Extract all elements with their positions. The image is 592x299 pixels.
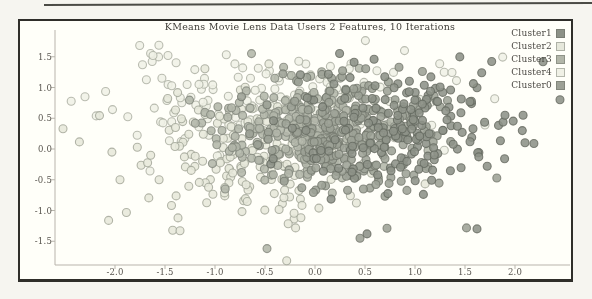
scatter-point [203, 199, 211, 207]
scatter-point [81, 93, 89, 101]
scatter-point [248, 50, 256, 58]
scatter-point [366, 139, 374, 147]
scatter-point [201, 65, 209, 73]
scatter-point [183, 81, 191, 89]
scatter-point [367, 132, 375, 140]
scatter-point [439, 126, 447, 134]
scatter-point [296, 115, 304, 123]
scatter-point [384, 190, 392, 198]
scatter-point [262, 70, 270, 78]
scatter-point [228, 104, 236, 112]
scatter-point [381, 96, 389, 104]
scatter-point [199, 157, 207, 165]
scatter-point [172, 106, 180, 114]
legend-label: Cluster2 [511, 41, 552, 51]
scatter-point [282, 145, 290, 153]
legend-row: Cluster2 [511, 41, 565, 51]
legend-label: Cluster4 [511, 67, 552, 77]
scatter-point [116, 176, 124, 184]
scatter-point [556, 96, 564, 104]
scatter-point [155, 176, 163, 184]
scatter-point [312, 164, 320, 172]
scatter-point [446, 167, 454, 175]
scatter-point [149, 52, 157, 60]
scatter-point [415, 165, 423, 173]
scatter-point [164, 95, 172, 103]
y-axis-tick-label: -1.0 [24, 206, 52, 216]
scatter-point [372, 181, 380, 189]
scatter-point [296, 71, 304, 79]
scatter-point [509, 117, 517, 125]
scatter-point [67, 97, 75, 105]
scatter-point [317, 147, 325, 155]
scatter-point [342, 86, 350, 94]
scatter-point [270, 94, 278, 102]
scatter-point [519, 111, 527, 119]
scatter-point [466, 138, 474, 146]
scatter-point [428, 176, 436, 184]
legend-label: Cluster3 [511, 54, 552, 64]
scatter-point [302, 126, 310, 134]
scatter-point [269, 155, 277, 163]
scatter-point [155, 41, 163, 49]
legend-swatch [556, 81, 565, 90]
scatter-point [172, 124, 180, 132]
scatter-point [359, 185, 367, 193]
scatter-point [216, 159, 224, 167]
scatter-point [147, 151, 155, 159]
scatter-point [291, 97, 299, 105]
scatter-point [168, 202, 176, 210]
scatter-point [457, 95, 465, 103]
scatter-point [359, 144, 367, 152]
scatter-point [448, 69, 456, 77]
scatter-point [315, 204, 323, 212]
scatter-point [381, 73, 389, 81]
scatter-point [457, 164, 465, 172]
scatter-point [284, 220, 292, 228]
scatter-point [283, 257, 291, 265]
scatter-point [207, 127, 215, 135]
scatter-point [409, 116, 417, 124]
scatter-point [239, 111, 247, 119]
scatter-point [373, 67, 381, 75]
scatter-point [271, 74, 279, 82]
scatter-point [394, 112, 402, 120]
scatter-point [363, 161, 371, 169]
scatter-point [297, 214, 305, 222]
y-axis-tick-label: 0.0 [24, 144, 52, 154]
scatter-point [355, 133, 363, 141]
scatter-point [390, 127, 398, 135]
scatter-point [501, 111, 509, 119]
scatter-point [418, 100, 426, 108]
scatter-point [419, 116, 427, 124]
scatter-point [280, 177, 288, 185]
scatter-point [174, 89, 182, 97]
scatter-point [171, 143, 179, 151]
scatter-point [371, 82, 379, 90]
scatter-point [177, 115, 185, 123]
scatter-point [186, 96, 194, 104]
scatter-point [281, 97, 289, 105]
legend-label: Cluster1 [511, 28, 552, 38]
x-axis-tick-label: -1.5 [145, 267, 185, 277]
scatter-point [214, 103, 222, 111]
scatter-point [243, 198, 251, 206]
scatter-point [238, 208, 246, 216]
scatter-point [397, 177, 405, 185]
y-axis-tick-label: -0.5 [24, 175, 52, 185]
scatter-point [124, 113, 132, 121]
scatter-point [416, 132, 424, 140]
scatter-point [102, 88, 110, 96]
scatter-point [319, 167, 327, 175]
scatter-point [174, 214, 182, 222]
scatter-point [501, 155, 509, 163]
x-axis-tick-label: 1.0 [395, 267, 435, 277]
legend-swatch [556, 68, 565, 77]
scatter-point [59, 125, 67, 133]
scatter-point [380, 129, 388, 137]
scatter-point [473, 225, 481, 233]
scatter-point [493, 174, 501, 182]
scatter-point [271, 85, 279, 93]
scatter-point [234, 73, 242, 81]
scatter-point [335, 164, 343, 172]
